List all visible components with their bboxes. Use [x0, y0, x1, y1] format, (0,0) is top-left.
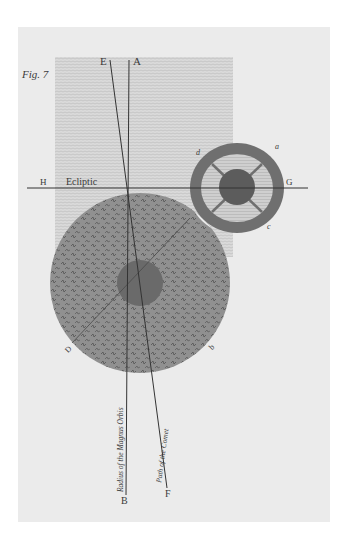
point-label-B: B: [121, 495, 128, 506]
figure-label: Fig. 7: [21, 68, 49, 80]
point-label-a: a: [275, 142, 279, 151]
comet-diagram: Fig. 7 E A H Ecliptic G d a c D b Radius…: [0, 0, 347, 548]
point-label-E: E: [100, 55, 107, 67]
comet-path-caption: Path of the Comet: [154, 427, 171, 484]
small-ring-core: [219, 169, 255, 205]
point-label-c: c: [267, 222, 271, 231]
point-label-b: b: [207, 342, 216, 351]
point-label-H: H: [40, 177, 47, 187]
point-label-A: A: [133, 55, 141, 67]
point-label-F: F: [165, 488, 171, 499]
point-label-D: D: [63, 344, 74, 355]
radius-caption: Radius of the Magnus Orbis: [116, 407, 125, 493]
ecliptic-label: Ecliptic: [66, 176, 98, 187]
point-label-G: G: [286, 177, 293, 187]
